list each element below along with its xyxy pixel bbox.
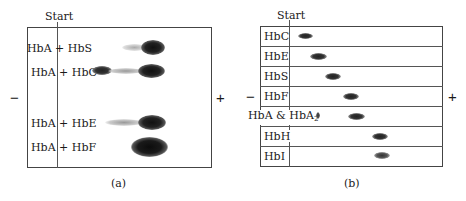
row-divider xyxy=(260,46,443,47)
row-label: HbI xyxy=(264,151,285,163)
anode-plus-a: + xyxy=(216,90,225,105)
row-label-hba-hba2: HbA & HbA2 xyxy=(248,110,318,125)
start-label-a: Start xyxy=(45,11,73,23)
row-label: HbF xyxy=(264,91,288,103)
lane-label: HbA + HbC xyxy=(31,67,97,79)
row-label: HbE xyxy=(264,51,289,63)
band-hba xyxy=(348,113,365,120)
caption-b: (b) xyxy=(344,177,360,190)
band-hba xyxy=(138,115,166,130)
start-label-b: Start xyxy=(277,10,305,22)
caption-a: (a) xyxy=(111,177,126,190)
band-hbc xyxy=(298,33,313,39)
cathode-minus-b: − xyxy=(246,89,255,104)
band-hba xyxy=(138,64,165,78)
band-hbe xyxy=(310,53,327,60)
row-label: HbS xyxy=(264,71,288,83)
band-hbh xyxy=(372,133,388,140)
band-hbf xyxy=(343,93,359,100)
band-hbf-hba xyxy=(131,137,168,157)
lane-label: HbA + HbS xyxy=(27,43,92,55)
row-divider xyxy=(260,86,443,87)
row-label: HbH xyxy=(264,131,290,143)
row-divider xyxy=(260,146,443,147)
row-divider xyxy=(260,106,443,107)
band-hbi xyxy=(374,152,390,159)
row-divider xyxy=(260,66,443,67)
row-label: HbC xyxy=(264,31,289,43)
cathode-minus-a: − xyxy=(10,90,19,105)
band-hbs xyxy=(325,73,341,80)
band-hba2 xyxy=(316,112,320,119)
lane-label: HbA + HbE xyxy=(31,118,96,130)
anode-plus-b: + xyxy=(448,89,457,104)
band-hba xyxy=(141,40,165,55)
row-divider xyxy=(260,126,443,127)
lane-label: HbA + HbF xyxy=(31,142,96,154)
